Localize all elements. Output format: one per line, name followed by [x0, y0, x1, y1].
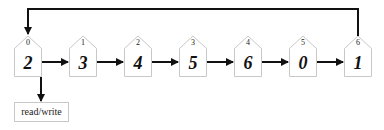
- node-value: 5: [179, 53, 207, 74]
- node-value: 3: [69, 53, 97, 74]
- node-index: 4: [234, 38, 262, 47]
- node-1: 1 3: [69, 35, 97, 77]
- read-write-box: read/write: [14, 102, 69, 122]
- node-index: 6: [344, 38, 372, 47]
- node-3: 3 5: [179, 35, 207, 77]
- node-5: 5 0: [289, 35, 317, 77]
- node-value: 1: [344, 53, 372, 74]
- node-value: 4: [124, 53, 152, 74]
- node-value: 6: [234, 53, 262, 74]
- node-index: 0: [14, 38, 42, 47]
- node-0: 0 2: [14, 35, 42, 77]
- node-value: 0: [289, 53, 317, 74]
- node-2: 2 4: [124, 35, 152, 77]
- node-4: 4 6: [234, 35, 262, 77]
- node-value: 2: [14, 53, 42, 74]
- node-index: 5: [289, 38, 317, 47]
- node-index: 3: [179, 38, 207, 47]
- node-6: 6 1: [344, 35, 372, 77]
- node-index: 2: [124, 38, 152, 47]
- node-index: 1: [69, 38, 97, 47]
